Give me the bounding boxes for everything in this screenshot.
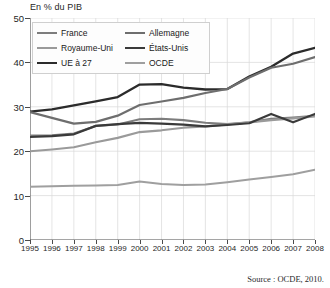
- x-tick-mark: [293, 240, 294, 244]
- series-line-ocde: [30, 170, 315, 187]
- x-tick-mark: [118, 240, 119, 244]
- x-tick-label: 1999: [109, 244, 127, 253]
- x-tick-mark: [140, 240, 141, 244]
- x-tick-mark: [249, 240, 250, 244]
- y-tick-mark: [25, 62, 30, 63]
- legend-item-ocde[interactable]: OCDE: [125, 58, 215, 68]
- x-tick-mark: [227, 240, 228, 244]
- legend-item-france[interactable]: France: [37, 28, 125, 38]
- x-tick-label: 2002: [175, 244, 193, 253]
- x-tick-label: 2005: [240, 244, 258, 253]
- x-tick-label: 2008: [306, 244, 324, 253]
- x-tick-label: 2007: [284, 244, 302, 253]
- x-tick-label: 1996: [43, 244, 61, 253]
- x-tick-label: 1998: [87, 244, 105, 253]
- x-tick-label: 1997: [65, 244, 83, 253]
- legend-item--tats-unis[interactable]: États-Unis: [125, 43, 215, 53]
- x-tick-label: 2006: [262, 244, 280, 253]
- legend-label: Allemagne: [149, 28, 189, 38]
- legend-item-allemagne[interactable]: Allemagne: [125, 28, 215, 38]
- y-tick-label: 20: [4, 146, 24, 157]
- chart-axis-title: En % du PIB: [30, 2, 82, 12]
- y-tick-label: 10: [4, 190, 24, 201]
- line-chart: En % du PIB 01020304050 1995199619971998…: [0, 0, 330, 288]
- legend-item-ue-27[interactable]: UE à 27: [37, 58, 125, 68]
- x-tick-label: 1995: [21, 244, 39, 253]
- legend-line-swatch: [125, 32, 145, 34]
- x-tick-mark: [74, 240, 75, 244]
- legend-line-swatch: [125, 62, 145, 64]
- legend-label: France: [61, 28, 87, 38]
- y-tick-mark: [25, 18, 30, 19]
- x-tick-mark: [96, 240, 97, 244]
- x-tick-mark: [205, 240, 206, 244]
- legend-label: UE à 27: [61, 58, 92, 68]
- y-tick-label: 40: [4, 57, 24, 68]
- y-tick-label: 30: [4, 101, 24, 112]
- y-tick-label: 50: [4, 13, 24, 24]
- source-note: Source : OCDE, 2010.: [247, 274, 324, 284]
- series-line--tats-unis: [30, 114, 315, 137]
- legend-line-swatch: [37, 62, 57, 64]
- x-tick-mark: [183, 240, 184, 244]
- legend-label: OCDE: [149, 58, 174, 68]
- legend-line-swatch: [37, 32, 57, 34]
- legend-label: États-Unis: [149, 43, 188, 53]
- x-tick-mark: [30, 240, 31, 244]
- x-tick-label: 2004: [218, 244, 236, 253]
- legend-label: Royaume-Uni: [61, 43, 113, 53]
- x-tick-label: 2001: [153, 244, 171, 253]
- legend-line-swatch: [37, 47, 57, 49]
- x-tick-label: 2003: [196, 244, 214, 253]
- x-tick-mark: [315, 240, 316, 244]
- x-tick-mark: [162, 240, 163, 244]
- legend-item-royaume-uni[interactable]: Royaume-Uni: [37, 43, 125, 53]
- x-tick-mark: [52, 240, 53, 244]
- series-line-france: [30, 116, 315, 136]
- y-tick-mark: [25, 196, 30, 197]
- chart-legend: FranceAllemagneRoyaume-UniÉtats-UnisUE à…: [32, 22, 210, 74]
- x-tick-label: 2000: [131, 244, 149, 253]
- y-tick-mark: [25, 107, 30, 108]
- legend-line-swatch: [125, 47, 145, 49]
- y-tick-mark: [25, 151, 30, 152]
- x-tick-mark: [271, 240, 272, 244]
